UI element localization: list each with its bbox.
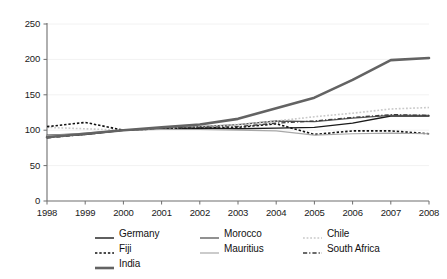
legend-label: Mauritius — [224, 243, 264, 254]
legend-row: GermanyMoroccoChile — [95, 226, 445, 241]
legend-item-chile[interactable]: Chile — [303, 226, 349, 241]
legend-swatch-icon — [95, 244, 114, 254]
legend-item-germany[interactable]: Germany — [95, 226, 159, 241]
legend-swatch-icon — [95, 229, 114, 239]
legend-row: FijiMauritiusSouth Africa — [95, 241, 445, 256]
axis-lines — [47, 23, 429, 201]
x-tick-label: 2006 — [336, 207, 370, 218]
legend-label: South Africa — [327, 243, 380, 254]
legend-swatch-icon — [200, 244, 219, 254]
legend-swatch-icon — [303, 244, 322, 254]
legend-item-india[interactable]: India — [95, 256, 140, 271]
legend-item-mauritius[interactable]: Mauritius — [200, 241, 264, 256]
x-tick-label: 2000 — [106, 207, 140, 218]
tick-marks — [44, 24, 430, 205]
y-tick-label: 200 — [14, 53, 40, 64]
y-tick-label: 0 — [14, 195, 40, 206]
chart-legend: GermanyMoroccoChileFijiMauritiusSouth Af… — [95, 226, 445, 271]
series-line-india — [47, 58, 429, 137]
legend-label: India — [119, 258, 140, 269]
x-tick-label: 2008 — [412, 207, 446, 218]
x-tick-label: 1998 — [30, 207, 64, 218]
legend-label: Germany — [119, 228, 159, 239]
legend-swatch-icon — [95, 259, 114, 269]
y-tick-label: 250 — [14, 18, 40, 29]
data-series-group — [47, 58, 429, 138]
x-tick-label: 2004 — [259, 207, 293, 218]
y-tick-label: 100 — [14, 124, 40, 135]
legend-item-south-africa[interactable]: South Africa — [303, 241, 380, 256]
x-tick-label: 2005 — [297, 207, 331, 218]
y-tick-label: 50 — [14, 160, 40, 171]
x-tick-label: 2007 — [374, 207, 408, 218]
legend-item-fiji[interactable]: Fiji — [95, 241, 131, 256]
legend-label: Morocco — [224, 228, 262, 239]
x-tick-label: 2003 — [221, 207, 255, 218]
legend-label: Chile — [327, 228, 349, 239]
x-tick-label: 1999 — [68, 207, 102, 218]
x-tick-label: 2002 — [183, 207, 217, 218]
legend-item-morocco[interactable]: Morocco — [200, 226, 262, 241]
legend-swatch-icon — [303, 229, 322, 239]
y-tick-label: 150 — [14, 89, 40, 100]
legend-row: India — [95, 256, 445, 271]
legend-swatch-icon — [200, 229, 219, 239]
legend-label: Fiji — [119, 243, 131, 254]
x-tick-label: 2001 — [145, 207, 179, 218]
gridlines — [47, 24, 429, 166]
line-chart: 050100150200250 199819992000200120022003… — [0, 0, 447, 279]
